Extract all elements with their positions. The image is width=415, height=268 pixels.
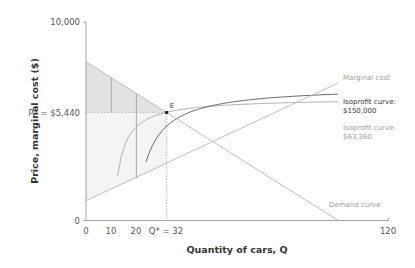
x-tick-label-120: 120 (380, 226, 396, 236)
x-tick-label-20: 20 (131, 226, 142, 236)
x-axis-title: Quantity of cars, Q (186, 244, 287, 255)
isoprofit-high-label-line1: Isoprofit curve: (343, 98, 396, 106)
demand-curve-label: Demand curve (329, 201, 381, 209)
equilibrium-point (165, 111, 168, 114)
equilibrium-label: E (170, 102, 174, 110)
y-axis-title: Price, marginal cost ($) (29, 58, 40, 184)
x-tick-label-qstar: Q* = 32 (149, 226, 183, 236)
isoprofit-low-label-line1: Isoprofit curve: (343, 124, 396, 132)
isoprofit-high-label-line2: $150,000 (343, 107, 376, 115)
producer-surplus-area (86, 113, 167, 201)
x-tick-label-0: 0 (83, 226, 88, 236)
isoprofit-low-label-line2: $63,360 (343, 133, 372, 141)
marginal-cost-label: Marginal cost (343, 74, 390, 82)
chart: E 10,000 0 P* = $5,440 0 10 20 Q* = 32 1… (0, 0, 415, 268)
y-tick-label-top: 10,000 (50, 17, 80, 27)
x-tick-label-10: 10 (106, 226, 117, 236)
y-tick-label-zero: 0 (75, 216, 80, 226)
